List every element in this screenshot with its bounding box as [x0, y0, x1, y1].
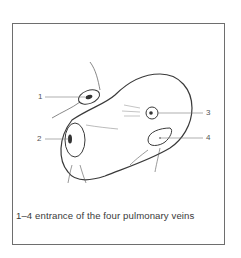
vessel-line — [68, 165, 72, 183]
vein-3-lumen — [149, 111, 153, 115]
label-4: 4 — [206, 134, 210, 142]
label-3: 3 — [206, 109, 210, 117]
atrium-outline — [61, 74, 192, 180]
surface-line — [122, 105, 140, 116]
figure-caption: 1–4 entrance of the four pulmonary veins — [16, 210, 226, 221]
vein-1-lumen — [85, 94, 93, 100]
label-1: 1 — [38, 93, 42, 101]
vessel-line — [52, 102, 80, 118]
vessel-line — [155, 148, 160, 172]
surface-line — [86, 125, 118, 129]
vein-2-entrance — [65, 123, 85, 157]
label-2: 2 — [37, 135, 41, 143]
vessel-line — [90, 62, 100, 90]
vein-4-entrance — [148, 128, 172, 146]
